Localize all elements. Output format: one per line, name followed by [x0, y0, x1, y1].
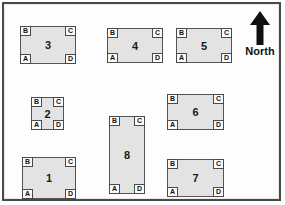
compass-rose: North: [236, 10, 284, 62]
corner-marker-a: A: [167, 187, 178, 197]
corner-marker-a: A: [107, 53, 118, 63]
plot-number-label: 8: [110, 150, 144, 161]
corner-marker-b: B: [167, 94, 178, 104]
corner-marker-d: D: [65, 189, 76, 199]
corner-marker-c: C: [65, 26, 76, 36]
corner-marker-c: C: [134, 116, 145, 126]
corner-marker-a: A: [109, 184, 120, 194]
corner-marker-b: B: [31, 97, 42, 107]
up-arrow-icon: [236, 10, 284, 46]
corner-marker-b: B: [20, 26, 31, 36]
corner-marker-a: A: [20, 54, 31, 64]
corner-marker-b: B: [167, 159, 178, 169]
plot-4[interactable]: 4BCAD: [107, 28, 163, 63]
corner-marker-d: D: [221, 53, 232, 63]
corner-marker-c: C: [65, 157, 76, 167]
corner-marker-a: A: [176, 53, 187, 63]
corner-marker-c: C: [221, 28, 232, 38]
plot-3[interactable]: 3BCAD: [20, 26, 76, 64]
corner-marker-d: D: [53, 120, 64, 130]
corner-marker-d: D: [134, 184, 145, 194]
figure-frame: 3BCAD4BCAD5BCAD2BCAD6BCAD8BCAD1BCAD7BCAD…: [2, 2, 281, 201]
plot-number-label: 1: [23, 173, 75, 184]
corner-marker-b: B: [176, 28, 187, 38]
plot-number-label: 2: [32, 108, 63, 119]
plot-7[interactable]: 7BCAD: [167, 159, 224, 197]
plot-number-label: 7: [168, 173, 223, 184]
corner-marker-a: A: [167, 120, 178, 130]
corner-marker-b: B: [109, 116, 120, 126]
corner-marker-d: D: [213, 187, 224, 197]
plot-2[interactable]: 2BCAD: [31, 97, 64, 130]
plot-8[interactable]: 8BCAD: [109, 116, 145, 194]
corner-marker-b: B: [107, 28, 118, 38]
plot-number-label: 3: [21, 40, 75, 51]
corner-marker-c: C: [213, 159, 224, 169]
plot-number-label: 4: [108, 40, 162, 51]
corner-marker-d: D: [65, 54, 76, 64]
corner-marker-a: A: [22, 189, 33, 199]
figure-canvas: 3BCAD4BCAD5BCAD2BCAD6BCAD8BCAD1BCAD7BCAD…: [0, 0, 285, 205]
plot-6[interactable]: 6BCAD: [167, 94, 224, 130]
corner-marker-c: C: [53, 97, 64, 107]
plot-number-label: 6: [168, 107, 223, 118]
plot-5[interactable]: 5BCAD: [176, 28, 232, 63]
corner-marker-b: B: [22, 157, 33, 167]
corner-marker-c: C: [152, 28, 163, 38]
corner-marker-d: D: [152, 53, 163, 63]
corner-marker-c: C: [213, 94, 224, 104]
compass-label: North: [236, 45, 284, 58]
plot-1[interactable]: 1BCAD: [22, 157, 76, 199]
corner-marker-d: D: [213, 120, 224, 130]
plot-number-label: 5: [177, 40, 231, 51]
corner-marker-a: A: [31, 120, 42, 130]
